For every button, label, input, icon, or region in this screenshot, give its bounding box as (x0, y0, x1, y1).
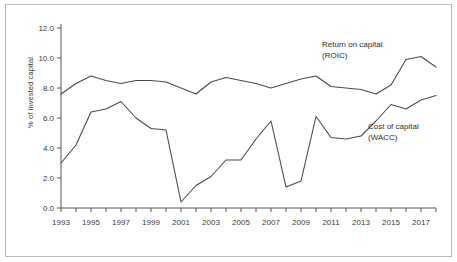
x-axis-tick-label: 2011 (322, 218, 340, 227)
x-axis-tick-label: 2005 (232, 218, 250, 227)
x-axis-tick-label: 2007 (262, 218, 280, 227)
annotation-wacc-line1: Cost of capital (368, 122, 419, 133)
series-line-roic (61, 57, 436, 95)
x-axis-tick-label: 2001 (172, 218, 190, 227)
y-axis-tick-label: 6.0 (43, 114, 55, 123)
x-axis-tick-label: 2015 (382, 218, 400, 227)
x-axis-tick-label: 2003 (202, 218, 220, 227)
annotation-roic: Return on capital (ROIC) (322, 40, 382, 61)
annotation-roic-line2: (ROIC) (322, 51, 382, 62)
y-axis-tick-label: 4.0 (43, 144, 55, 153)
annotation-wacc: Cost of capital (WACC) (368, 122, 419, 143)
x-axis-tick-label: 1997 (112, 218, 130, 227)
annotation-wacc-line2: (WACC) (368, 133, 419, 144)
y-axis-tick-label: 10.0 (38, 54, 54, 63)
x-axis-tick-label: 1995 (82, 218, 100, 227)
x-axis-tick-label: 1999 (142, 218, 160, 227)
chart-figure: % of invested capital 0.02.04.06.08.010.… (0, 0, 457, 262)
y-axis-tick-label: 8.0 (43, 84, 55, 93)
plot-area: % of invested capital 0.02.04.06.08.010.… (0, 0, 457, 262)
x-axis-tick-label: 1993 (52, 218, 70, 227)
y-axis-tick-label: 12.0 (38, 24, 54, 33)
x-axis-tick-label: 2013 (352, 218, 370, 227)
x-axis-tick-label: 2009 (292, 218, 310, 227)
x-axis-tick-label: 2017 (412, 218, 430, 227)
annotation-roic-line1: Return on capital (322, 40, 382, 51)
series-line-wacc (61, 96, 436, 203)
y-axis-tick-label: 0.0 (43, 204, 55, 213)
y-axis-tick-label: 2.0 (43, 174, 55, 183)
